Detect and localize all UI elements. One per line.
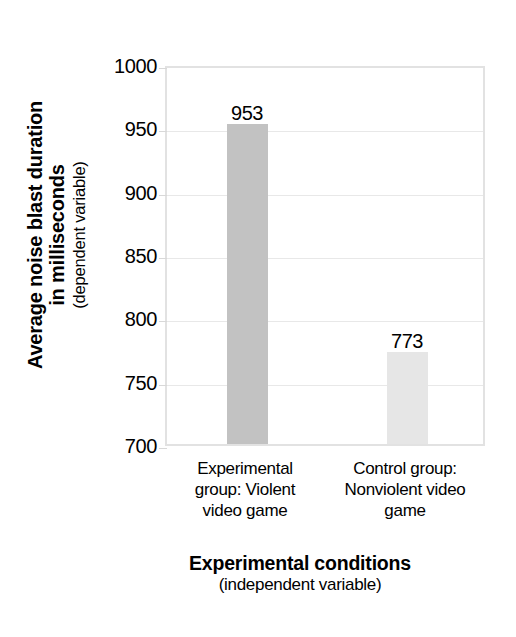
y-axis-title-line2: in milliseconds xyxy=(46,25,68,445)
category-label-line: video game xyxy=(167,500,323,521)
gridline xyxy=(167,385,483,386)
x-axis-category-label: Experimentalgroup: Violentvideo game xyxy=(165,458,325,534)
y-axis-tick-label: 700 xyxy=(97,436,157,456)
category-label-line: Nonviolent video xyxy=(327,479,483,500)
y-axis-tick-label: 850 xyxy=(97,246,157,266)
y-axis-tick xyxy=(159,321,167,322)
category-label-line: Control group: xyxy=(327,458,483,479)
x-axis-title-main: Experimental conditions xyxy=(100,552,500,574)
category-label-line: group: Violent xyxy=(167,479,323,500)
y-axis-tick-label: 900 xyxy=(97,183,157,203)
y-axis-tick xyxy=(159,448,167,449)
gridline xyxy=(167,258,483,259)
y-axis-tick-label: 950 xyxy=(97,119,157,139)
x-axis-title: Experimental conditions (independent var… xyxy=(100,552,500,595)
bar-value-label: 953 xyxy=(231,103,263,123)
bar-value-label: 773 xyxy=(391,331,423,351)
x-axis-category-label: Control group:Nonviolent videogame xyxy=(325,458,485,534)
y-axis-tick xyxy=(159,385,167,386)
y-axis-tick xyxy=(159,195,167,196)
bar xyxy=(227,124,268,444)
chart-page: { "chart_data": { "type": "bar", "title"… xyxy=(0,0,516,637)
x-axis-category-labels: Experimentalgroup: Violentvideo gameCont… xyxy=(165,458,485,534)
y-axis-tick xyxy=(159,68,167,69)
category-label-line: Experimental xyxy=(167,458,323,479)
bar xyxy=(387,352,428,444)
y-axis-title-subtitle: (dependent variable) xyxy=(70,25,88,445)
plot-area: 953773 xyxy=(165,66,485,446)
y-axis-tick xyxy=(159,131,167,132)
gridline xyxy=(167,195,483,196)
x-axis-title-subtitle: (independent variable) xyxy=(100,575,500,594)
y-axis-tick xyxy=(159,258,167,259)
y-axis-title-line1: Average noise blast duration xyxy=(24,25,46,445)
y-axis-tick-label: 800 xyxy=(97,309,157,329)
category-label-line: game xyxy=(327,500,483,521)
gridline xyxy=(167,321,483,322)
y-axis-tick-labels: 1000950900850800750700 xyxy=(95,66,157,446)
gridline xyxy=(167,131,483,132)
y-axis-tick-label: 1000 xyxy=(97,56,157,76)
y-axis-tick-label: 750 xyxy=(97,373,157,393)
